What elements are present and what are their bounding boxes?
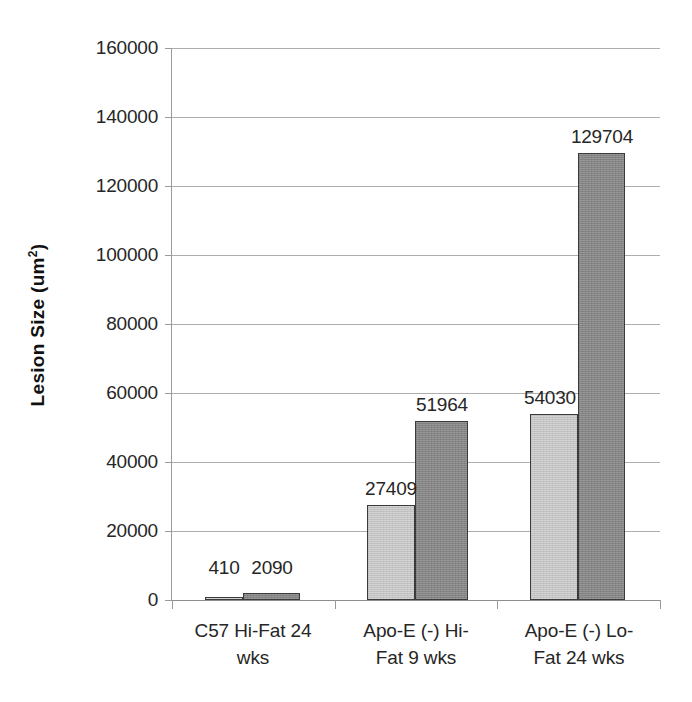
- value-label-series-1-1: 27409: [331, 479, 451, 498]
- bar-chart: Lesion Size (um2) 1600001400001200001000…: [0, 0, 692, 702]
- y-axis-tick-label: 80000: [8, 314, 158, 333]
- y-axis-tick-label: 20000: [8, 521, 158, 540]
- value-label-series-2-1: 51964: [382, 395, 502, 414]
- bar-series-1-1: [367, 505, 415, 600]
- bar-series-2-1: [415, 421, 468, 600]
- category-separator: [497, 600, 498, 609]
- y-axis-tick-label: 160000: [8, 38, 158, 57]
- y-axis-tick-label: 140000: [8, 107, 158, 126]
- category-separator: [335, 600, 336, 609]
- y-axis-tick-mark: [165, 117, 172, 118]
- value-label-series-2-2: 129704: [542, 127, 662, 146]
- y-axis-tick-mark: [165, 600, 172, 601]
- category-separator: [172, 600, 173, 609]
- y-axis-tick-mark: [165, 324, 172, 325]
- y-axis-tick-mark: [165, 393, 172, 394]
- y-axis-tick-label: 0: [8, 590, 158, 609]
- y-axis-tick-label: 120000: [8, 176, 158, 195]
- y-axis-tick-mark: [165, 186, 172, 187]
- y-axis-tick-label: 60000: [8, 383, 158, 402]
- y-axis-tick-mark: [165, 255, 172, 256]
- y-axis-tick-labels: 1600001400001200001000008000060000400002…: [0, 0, 158, 702]
- y-axis-tick-mark: [165, 531, 172, 532]
- gridline: [172, 600, 660, 601]
- x-axis-category-label-1: Apo-E (-) Hi- Fat 9 wks: [331, 617, 501, 671]
- bar-series-1-0: [205, 597, 243, 600]
- y-axis-tick-label: 40000: [8, 452, 158, 471]
- y-axis-tick-label: 100000: [8, 245, 158, 264]
- bar-series-2-2: [578, 153, 625, 600]
- y-axis-tick-mark: [165, 462, 172, 463]
- category-separator: [660, 600, 661, 609]
- value-label-series-2-0: 2090: [212, 558, 332, 577]
- x-axis-category-label-2: Apo-E (-) Lo- Fat 24 wks: [494, 617, 664, 671]
- x-axis-category-label-0: C57 Hi-Fat 24 wks: [168, 617, 338, 671]
- bar-series-1-2: [530, 414, 578, 600]
- value-label-series-1-2: 54030: [490, 388, 610, 407]
- y-axis-tick-mark: [165, 48, 172, 49]
- bar-series-2-0: [243, 593, 300, 600]
